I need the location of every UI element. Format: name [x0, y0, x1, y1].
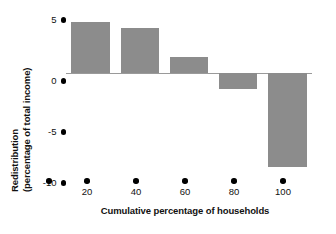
x-tick-60: 60: [168, 178, 202, 196]
plot-area: [66, 14, 312, 190]
bar-40: [121, 28, 159, 73]
x-tick-dot-icon-40: [133, 178, 139, 184]
bar-chart-figure: Redistribution (percentage of total inco…: [0, 0, 336, 234]
x-axis-title: Cumulative percentage of households: [40, 205, 330, 216]
x-tick-origin: [32, 178, 66, 187]
x-tick-20: 20: [70, 178, 104, 196]
x-tick-40: 40: [119, 178, 153, 196]
x-tick-label-40: 40: [119, 187, 153, 197]
y-tick-label-5: 5: [51, 15, 56, 25]
x-tick-80: 80: [217, 178, 251, 196]
bar-80: [219, 73, 257, 89]
y-axis-ticks: 5 0 -5 -10: [34, 0, 66, 200]
x-tick-label-20: 20: [70, 187, 104, 197]
bar-60: [170, 57, 208, 72]
bar-20: [71, 22, 109, 72]
y-tick-label-minus-5: -5: [48, 127, 56, 137]
x-axis-ticks: 20 40 60 80 100: [66, 178, 328, 208]
x-tick-label-60: 60: [168, 187, 202, 197]
x-tick-dot-icon-20: [84, 178, 90, 184]
x-tick-dot-icon-100: [280, 178, 286, 184]
y-tick-minus-5: -5: [48, 126, 66, 138]
y-tick-0: 0: [51, 75, 66, 87]
y-tick-5: 5: [51, 14, 66, 26]
x-tick-dot-icon-60: [182, 178, 188, 184]
x-tick-100: 100: [266, 178, 300, 196]
x-tick-label-100: 100: [266, 187, 300, 197]
x-tick-label-80: 80: [217, 187, 251, 197]
y-tick-label-0: 0: [51, 76, 56, 86]
x-tick-dot-icon-80: [231, 178, 237, 184]
x-tick-dot-icon-origin: [46, 178, 52, 184]
bar-100: [268, 73, 306, 167]
